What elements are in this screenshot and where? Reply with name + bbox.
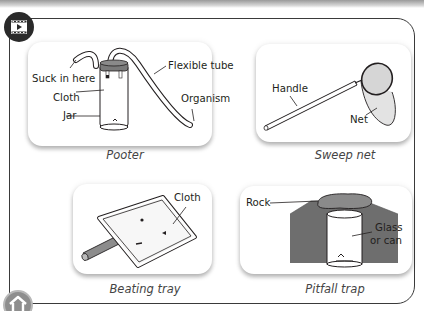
label-cloth: Cloth	[53, 93, 80, 103]
caption-pitfall-trap: Pitfall trap	[290, 282, 380, 296]
label-cloth-tray: Cloth	[174, 193, 201, 203]
label-suck-in-here: Suck in here	[32, 74, 95, 84]
caption-beating-tray: Beating tray	[100, 282, 190, 296]
label-net: Net	[350, 115, 368, 125]
caption-sweep-net: Sweep net	[300, 148, 390, 162]
label-organism: Organism	[181, 94, 230, 104]
label-rock: Rock	[246, 198, 270, 208]
home-icon	[8, 295, 28, 311]
video-play-icon	[10, 19, 28, 35]
label-jar: Jar	[63, 111, 76, 121]
label-glass-line1: Glass	[375, 223, 403, 233]
caption-pooter: Pooter	[100, 148, 150, 162]
top-band	[0, 0, 424, 8]
label-flexible-tube: Flexible tube	[168, 61, 234, 71]
video-button[interactable]	[4, 12, 34, 42]
label-glass-line2: or can	[370, 236, 402, 246]
label-handle: Handle	[272, 84, 308, 94]
